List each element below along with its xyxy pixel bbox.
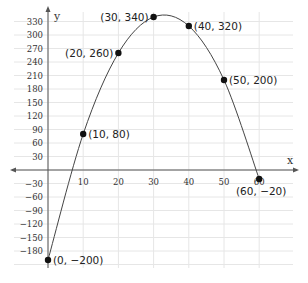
y-tick-label: 90 xyxy=(32,125,43,135)
axes xyxy=(10,6,299,268)
data-point xyxy=(221,77,227,83)
x-tick-label: 50 xyxy=(219,177,230,187)
y-tick-label: 30 xyxy=(32,152,43,162)
data-point xyxy=(45,257,51,263)
y-tick-label: 270 xyxy=(27,44,43,54)
data-point-label: (0, −200) xyxy=(53,254,103,266)
data-point-label: (50, 200) xyxy=(229,74,277,86)
data-point-label: (60, −20) xyxy=(236,185,286,197)
x-tick-label: 40 xyxy=(183,177,194,187)
data-point xyxy=(256,176,262,182)
y-tick-label: 240 xyxy=(27,57,43,67)
y-tick-label: −180 xyxy=(20,246,43,256)
x-axis-label: x xyxy=(287,154,294,167)
y-tick-label: −60 xyxy=(25,192,43,202)
data-point xyxy=(80,131,86,137)
data-point-label: (30, 340) xyxy=(100,11,148,23)
y-tick-label: 300 xyxy=(27,30,43,40)
data-point xyxy=(115,50,121,56)
data-points: (0, −200)(10, 80)(20, 260)(30, 340)(40, … xyxy=(45,11,287,266)
x-arrow-right-icon xyxy=(293,168,299,173)
y-tick-label: −150 xyxy=(20,233,43,243)
y-tick-label: −30 xyxy=(25,179,43,189)
data-point-label: (20, 260) xyxy=(65,47,113,59)
y-tick-label: −90 xyxy=(25,206,43,216)
data-point xyxy=(150,14,156,20)
x-tick-label: 10 xyxy=(78,177,89,187)
data-point-label: (40, 320) xyxy=(194,20,242,32)
y-tick-label: 210 xyxy=(27,71,43,81)
x-arrow-left-icon xyxy=(10,168,16,173)
x-tick-label: 30 xyxy=(148,177,159,187)
y-tick-label: 60 xyxy=(32,138,43,148)
x-tick-label: 20 xyxy=(113,177,124,187)
y-axis-label: y xyxy=(53,10,61,23)
y-tick-label: 330 xyxy=(27,17,43,27)
y-tick-label: 150 xyxy=(27,98,43,108)
tick-labels: 1020304050603303002702402101801501209060… xyxy=(20,17,265,257)
y-tick-label: −120 xyxy=(20,219,43,229)
chart: 1020304050603303002702402101801501209060… xyxy=(0,0,308,283)
y-arrow-up-icon xyxy=(46,6,51,12)
y-tick-label: 180 xyxy=(27,84,43,94)
y-tick-label: 120 xyxy=(27,111,43,121)
data-point-label: (10, 80) xyxy=(88,128,130,140)
data-point xyxy=(186,23,192,29)
